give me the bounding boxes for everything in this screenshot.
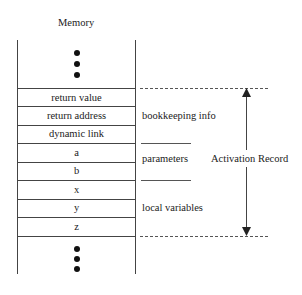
cell-a: a (18, 147, 135, 158)
arrow-up-icon (242, 88, 251, 97)
cell-x: x (18, 184, 135, 195)
row-divider (17, 88, 135, 89)
activation-record-diagram: Memory return value return address dynam… (0, 0, 302, 295)
ellipsis-dot-bottom-1 (74, 246, 80, 252)
arrow-down-icon (242, 227, 251, 236)
group-separator (141, 143, 191, 144)
row-divider (17, 106, 135, 107)
cell-b: b (18, 165, 135, 176)
memory-right-edge (135, 40, 136, 274)
ellipsis-dot-top-3 (74, 72, 80, 78)
cell-return-value: return value (18, 92, 135, 103)
group-separator (141, 180, 191, 181)
record-bottom-dashed-line (140, 236, 268, 237)
label-local-variables: local variables (142, 202, 203, 213)
row-divider (17, 236, 135, 237)
row-divider (17, 162, 135, 163)
label-parameters: parameters (142, 153, 188, 164)
row-divider (17, 217, 135, 218)
row-divider (17, 125, 135, 126)
label-activation-record: Activation Record (211, 153, 288, 164)
row-divider (17, 180, 135, 181)
cell-dynamic-link: dynamic link (18, 128, 135, 139)
cell-y: y (18, 202, 135, 213)
ellipsis-dot-top-2 (74, 61, 80, 67)
record-arrow-up-shaft (246, 94, 247, 150)
row-divider (17, 199, 135, 200)
cell-z: z (18, 221, 135, 232)
cell-return-address: return address (18, 110, 135, 121)
ellipsis-dot-bottom-3 (74, 266, 80, 272)
row-divider (17, 143, 135, 144)
record-arrow-down-shaft (246, 167, 247, 230)
ellipsis-dot-bottom-2 (74, 256, 80, 262)
ellipsis-dot-top-1 (74, 50, 80, 56)
label-bookkeeping: bookkeeping info (142, 110, 216, 121)
memory-title: Memory (58, 17, 94, 28)
